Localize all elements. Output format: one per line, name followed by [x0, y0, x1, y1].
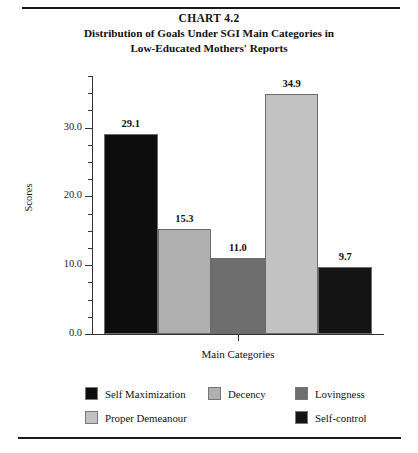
legend-color-swatch — [208, 387, 221, 400]
legend-item-label: Self Maximization — [105, 388, 186, 400]
x-axis-title: Main Categories — [92, 348, 384, 360]
bar-value-label: 15.3 — [158, 213, 212, 224]
legend-color-swatch — [295, 387, 308, 400]
bar-series: 29.115.311.034.99.7 — [0, 0, 418, 334]
chart-legend: Self MaximizationDecencyLovingnessProper… — [0, 385, 418, 431]
legend-color-swatch — [85, 387, 98, 400]
bar — [265, 94, 319, 334]
bar-chart-plot: 0.010.020.030.0 Scores Main Categories 2… — [0, 0, 418, 400]
y-axis-major-tick — [85, 334, 93, 335]
legend-item-label: Proper Demeanour — [105, 412, 187, 424]
legend-item: Self-control — [295, 411, 367, 424]
bar-value-label: 34.9 — [265, 78, 319, 89]
legend-color-swatch — [85, 411, 98, 424]
legend-item-label: Decency — [228, 388, 266, 400]
bar-value-label: 9.7 — [318, 251, 372, 262]
legend-item-label: Lovingness — [315, 388, 365, 400]
legend-color-swatch — [295, 411, 308, 424]
bottom-horizontal-rule — [18, 437, 401, 439]
legend-item-label: Self-control — [315, 412, 367, 424]
legend-item: Decency — [208, 387, 266, 400]
bar — [318, 267, 372, 334]
bar — [211, 258, 265, 334]
bar — [158, 229, 212, 334]
bar-value-label: 29.1 — [104, 118, 158, 129]
legend-item: Proper Demeanour — [85, 411, 187, 424]
bar — [104, 134, 158, 334]
legend-item: Lovingness — [295, 387, 365, 400]
legend-item: Self Maximization — [85, 387, 186, 400]
bar-value-label: 11.0 — [211, 242, 265, 253]
x-axis-center-tick — [238, 334, 239, 341]
